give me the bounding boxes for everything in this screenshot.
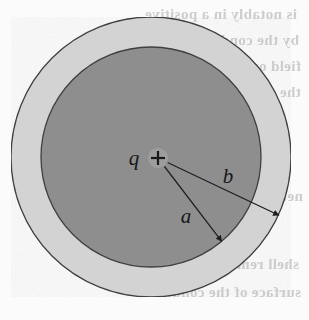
radius-label-a: a bbox=[181, 204, 192, 228]
physics-figure-spherical-shell: is notably in a positive by the conducti… bbox=[0, 0, 309, 320]
diagram-canvas: q b a bbox=[0, 0, 309, 320]
radius-label-b: b bbox=[223, 164, 234, 188]
charge-label-q: q bbox=[129, 146, 140, 170]
